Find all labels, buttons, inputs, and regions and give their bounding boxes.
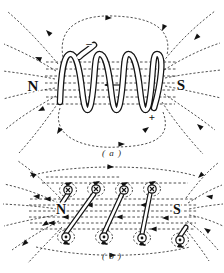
field-arrow-icon (28, 170, 36, 178)
negative-terminal-label: – (85, 37, 92, 49)
caption-b: ( b ) (102, 251, 122, 261)
field-arrow-icon (118, 142, 125, 147)
field-arrow-icon (203, 226, 211, 234)
south-pole-label-a: S (177, 77, 185, 93)
south-pole-label-b: S (173, 202, 181, 217)
field-arrow-icon (116, 215, 123, 220)
current-out-symbol (100, 233, 108, 241)
figure-a-coil (60, 45, 161, 110)
current-in-symbol (92, 185, 100, 193)
caption-a: ( a ) (102, 148, 122, 158)
current-in-symbol (64, 186, 72, 194)
field-arrow-icon (20, 240, 28, 248)
field-arrow-icon (195, 122, 203, 130)
field-arrow-icon (196, 172, 204, 180)
wire-cross-sections-bottom (62, 233, 184, 244)
field-arrow-icon (192, 34, 200, 42)
field-arrow-icon (142, 125, 150, 133)
current-in-symbol (120, 186, 128, 194)
solenoid-field-diagram: N S – + ( a ) (0, 0, 224, 273)
current-in-symbol (148, 185, 156, 193)
north-pole-label-b: N (56, 202, 66, 217)
field-arrow-icon (37, 106, 45, 113)
field-arrow-icon (44, 28, 52, 36)
figure-b-coil-turns (62, 194, 186, 236)
figure-a: N S – + ( a ) (3, 11, 221, 158)
current-out-symbol (138, 234, 146, 242)
current-out-symbol (62, 233, 70, 241)
field-arrow-icon (162, 216, 169, 221)
solenoid-field-diagram-page: N S – + ( a ) (0, 0, 224, 273)
field-arrow-icon (107, 164, 114, 169)
north-pole-label-a: N (28, 78, 39, 94)
field-arrow-icon (206, 194, 213, 200)
positive-terminal-label: + (149, 111, 155, 123)
figure-b: N S ( b ) (3, 161, 223, 263)
current-out-symbol (176, 236, 184, 244)
field-arrow-icon (160, 24, 167, 32)
wire-cross-sections-top (64, 185, 156, 194)
field-arrow-icon (150, 227, 157, 232)
